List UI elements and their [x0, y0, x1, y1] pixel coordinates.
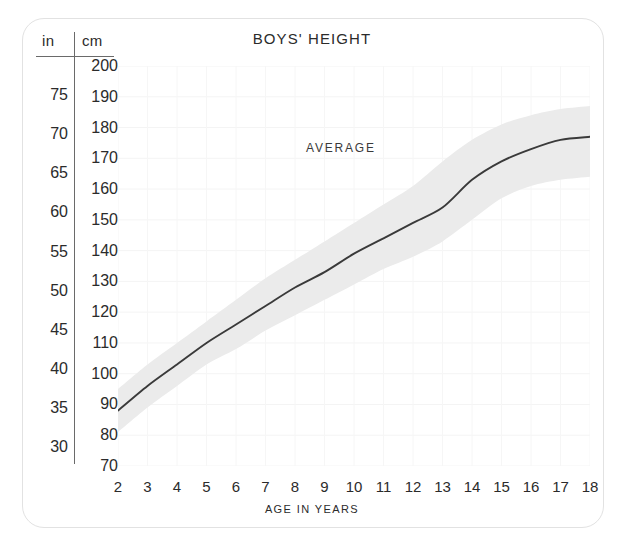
y-tick-inches: 35 — [28, 399, 68, 417]
x-tick: 12 — [398, 478, 428, 495]
y-tick-inches: 65 — [28, 164, 68, 182]
x-tick: 16 — [516, 478, 546, 495]
height-chart-svg — [118, 66, 590, 466]
x-tick: 7 — [251, 478, 281, 495]
x-tick: 8 — [280, 478, 310, 495]
x-tick: 3 — [133, 478, 163, 495]
y-tick-centimeters: 160 — [80, 180, 118, 198]
y-tick-centimeters: 90 — [80, 395, 118, 413]
y-tick-inches: 30 — [28, 438, 68, 456]
x-tick: 4 — [162, 478, 192, 495]
y-tick-centimeters: 140 — [80, 242, 118, 260]
x-tick: 2 — [103, 478, 133, 495]
y-tick-centimeters: 200 — [80, 57, 118, 75]
y-tick-centimeters: 180 — [80, 119, 118, 137]
y-tick-inches: 45 — [28, 321, 68, 339]
y-tick-inches: 70 — [28, 125, 68, 143]
x-tick: 10 — [339, 478, 369, 495]
y-tick-centimeters: 70 — [80, 457, 118, 475]
y-tick-inches: 55 — [28, 243, 68, 261]
y-tick-centimeters: 190 — [80, 88, 118, 106]
y-tick-inches: 50 — [28, 282, 68, 300]
x-tick: 11 — [369, 478, 399, 495]
x-tick: 17 — [546, 478, 576, 495]
x-axis-title: AGE IN YEARS — [0, 503, 624, 515]
y-tick-centimeters: 80 — [80, 426, 118, 444]
average-annotation: AVERAGE — [306, 141, 376, 155]
x-tick: 14 — [457, 478, 487, 495]
x-tick: 5 — [192, 478, 222, 495]
chart-page: in cm 75706560555045403530 2001901801701… — [0, 0, 624, 546]
chart-title: BOYS' HEIGHT — [0, 30, 624, 47]
plot-area — [118, 66, 590, 466]
y-tick-inches: 60 — [28, 203, 68, 221]
y-tick-inches: 40 — [28, 360, 68, 378]
x-tick: 13 — [428, 478, 458, 495]
y-tick-inches: 75 — [28, 86, 68, 104]
y-tick-centimeters: 170 — [80, 149, 118, 167]
x-tick: 9 — [310, 478, 340, 495]
y-tick-centimeters: 110 — [80, 334, 118, 352]
y-tick-centimeters: 120 — [80, 303, 118, 321]
y-tick-centimeters: 150 — [80, 211, 118, 229]
y-axis-divider — [74, 32, 75, 464]
x-tick: 15 — [487, 478, 517, 495]
y-tick-centimeters: 100 — [80, 365, 118, 383]
x-tick: 18 — [575, 478, 605, 495]
y-tick-centimeters: 130 — [80, 272, 118, 290]
x-tick: 6 — [221, 478, 251, 495]
